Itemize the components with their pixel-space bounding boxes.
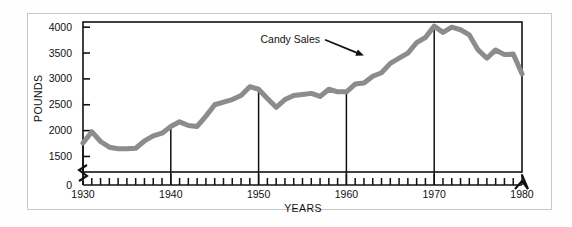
y-tick-label: 3500	[49, 47, 73, 59]
candy-sales-line-chart: 0150020002500300035004000 19301940195019…	[0, 0, 572, 227]
candy-sales-annotation-label: Candy Sales	[261, 33, 321, 45]
y-tick-label: 2500	[49, 98, 73, 110]
x-tick-label: 1940	[159, 188, 183, 200]
x-axis-tick-labels: 193019401950196019701980	[71, 188, 534, 200]
x-tick-label: 1970	[423, 188, 447, 200]
y-tick-label: 1500	[49, 150, 73, 162]
y-axis-title: POUNDS	[32, 75, 44, 122]
candy-sales-annotation-arrow	[325, 40, 364, 56]
x-axis-ticks	[83, 174, 522, 185]
y-tick-label: 3000	[49, 72, 73, 84]
y-axis-tick-labels: 0150020002500300035004000	[49, 21, 73, 191]
x-tick-label: 1980	[510, 188, 534, 200]
x-tick-label: 1960	[335, 188, 359, 200]
x-tick-label: 1930	[71, 188, 95, 200]
decade-drop-lines	[83, 27, 434, 185]
y-tick-label: 4000	[49, 21, 73, 33]
x-axis-title: YEARS	[284, 202, 322, 214]
x-tick-label: 1950	[247, 188, 271, 200]
y-tick-label: 2000	[49, 124, 73, 136]
figure-container: 0150020002500300035004000 19301940195019…	[0, 0, 572, 227]
